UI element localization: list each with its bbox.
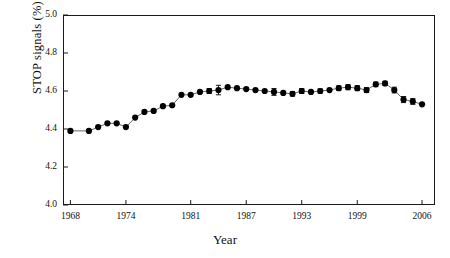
- x-axis-title: Year: [0, 232, 450, 248]
- y-axis-title: STOP signals (%): [30, 0, 45, 133]
- data-point-marker: [382, 80, 388, 86]
- data-point-marker: [363, 87, 369, 93]
- data-point-marker: [280, 90, 286, 96]
- data-point-marker: [252, 87, 258, 93]
- data-point-marker: [400, 96, 406, 102]
- y-tick-label: 4.8: [23, 47, 57, 57]
- data-point-marker: [197, 89, 203, 95]
- y-tick-label: 4.4: [23, 123, 57, 133]
- data-point-marker: [67, 128, 73, 134]
- x-tick-label: 2006: [400, 211, 444, 221]
- data-point-marker: [410, 98, 416, 104]
- data-point-marker: [169, 102, 175, 108]
- data-point-marker: [299, 88, 305, 94]
- data-point-marker: [391, 87, 397, 93]
- data-point-marker: [104, 120, 110, 126]
- data-point-marker: [373, 81, 379, 87]
- data-point-marker: [326, 87, 332, 93]
- data-point-marker: [336, 85, 342, 91]
- data-point-marker: [151, 108, 157, 114]
- data-point-marker: [215, 87, 221, 93]
- data-point-marker: [160, 103, 166, 109]
- data-point-marker: [225, 84, 231, 90]
- x-tick-label: 1987: [224, 211, 268, 221]
- data-point-marker: [289, 91, 295, 97]
- data-point-marker: [419, 101, 425, 107]
- chart-figure: STOP signals (%) Year 4.04.24.44.64.85.0…: [0, 0, 450, 258]
- x-tick-label: 1999: [335, 211, 379, 221]
- data-point-marker: [141, 109, 147, 115]
- data-point-marker: [354, 85, 360, 91]
- data-point-marker: [123, 124, 129, 130]
- x-tick-label: 1974: [104, 211, 148, 221]
- data-point-marker: [188, 92, 194, 98]
- x-tick-label: 1993: [280, 211, 324, 221]
- data-point-marker: [114, 120, 120, 126]
- data-point-marker: [132, 115, 138, 121]
- data-point-marker: [206, 88, 212, 94]
- data-point-marker: [243, 86, 249, 92]
- data-point-marker: [308, 89, 314, 95]
- data-point-marker: [86, 128, 92, 134]
- data-point-marker: [271, 89, 277, 95]
- data-point-marker: [262, 88, 268, 94]
- x-tick-label: 1968: [48, 211, 92, 221]
- x-tick-label: 1981: [169, 211, 213, 221]
- data-point-marker: [345, 84, 351, 90]
- data-point-marker: [234, 85, 240, 91]
- y-tick-label: 5.0: [23, 9, 57, 19]
- y-tick-label: 4.6: [23, 85, 57, 95]
- y-tick-label: 4.2: [23, 161, 57, 171]
- data-point-marker: [95, 124, 101, 130]
- data-point-marker: [317, 88, 323, 94]
- data-point-marker: [178, 92, 184, 98]
- y-tick-label: 4.0: [23, 199, 57, 209]
